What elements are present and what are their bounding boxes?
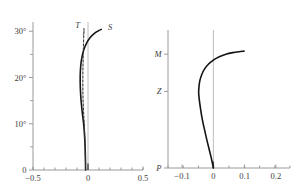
left-chart-panel: −0.500.5010°20°30°ST xyxy=(0,0,150,195)
figure-container: −0.500.5010°20°30°ST −0.100.10.2PZM xyxy=(0,0,300,195)
series-curve-profile xyxy=(199,51,244,168)
x-tick-label: 0 xyxy=(86,173,90,183)
y-tick-label: 30° xyxy=(15,26,27,36)
y-tick-label: 0 xyxy=(22,165,26,175)
x-tick-label: 0.5 xyxy=(138,173,149,183)
y-tick-label: 10° xyxy=(15,119,27,129)
series-label-T: T xyxy=(75,20,81,30)
y-tick-label: M xyxy=(153,49,162,59)
x-tick-label: −0.5 xyxy=(25,173,40,183)
x-tick-label: −0.1 xyxy=(174,171,189,181)
x-tick-label: 0.2 xyxy=(271,171,282,181)
series-label-S: S xyxy=(108,22,113,32)
x-tick-label: 0 xyxy=(211,171,215,181)
x-tick-label: 0.1 xyxy=(239,171,250,181)
left-chart-svg: −0.500.5010°20°30°ST xyxy=(0,0,150,195)
right-chart-svg: −0.100.10.2PZM xyxy=(150,0,300,195)
right-chart-panel: −0.100.10.2PZM xyxy=(150,0,300,195)
y-tick-label: P xyxy=(155,163,161,173)
y-tick-label: Z xyxy=(157,86,162,96)
y-tick-label: 20° xyxy=(15,73,27,83)
